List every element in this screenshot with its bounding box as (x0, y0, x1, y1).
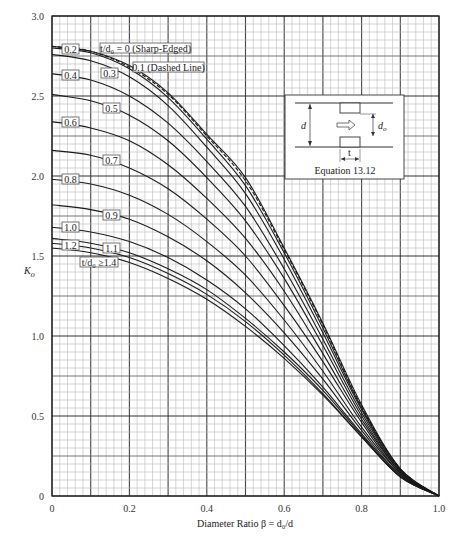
svg-text:0.4: 0.4 (64, 70, 77, 81)
svg-text:t: t (348, 147, 351, 158)
y-axis-label: Ko (23, 265, 35, 279)
curve-label: 1.0 (62, 222, 79, 233)
x-tick-label: 0 (50, 503, 55, 514)
x-axis-label: Diameter Ratio β = d₀/d (197, 518, 293, 529)
x-tick-label: 0.8 (355, 503, 368, 514)
y-tick-label: 0.5 (32, 411, 45, 422)
inset-caption: Equation 13.12 (314, 165, 375, 176)
curve-label: 0.5 (103, 103, 120, 114)
curve-label: 1.1 (103, 243, 120, 254)
x-tick-label: 1.0 (433, 503, 446, 514)
curve-label: 1.2 (62, 240, 79, 251)
y-tick-label: 1.5 (32, 251, 45, 262)
svg-text:0.2: 0.2 (64, 44, 77, 55)
curve-label: 0.6 (62, 117, 79, 128)
y-tick-label: 2.0 (32, 171, 45, 182)
svg-text:0.9: 0.9 (105, 210, 118, 221)
svg-text:0.3: 0.3 (103, 68, 116, 79)
curve-label: 0.2 (62, 44, 79, 55)
y-tick-label: 2.5 (32, 91, 45, 102)
svg-text:0.1 (Dashed Line): 0.1 (Dashed Line) (132, 62, 204, 74)
svg-text:0.7: 0.7 (105, 155, 118, 166)
y-tick-label: 3.0 (32, 11, 45, 22)
x-tick-label: 0.2 (123, 503, 136, 514)
svg-text:1.1: 1.1 (105, 243, 118, 254)
curve-label: t/d₀ ≥1.4 (80, 257, 118, 268)
y-tick-label: 0 (39, 491, 44, 502)
svg-text:1.2: 1.2 (64, 240, 77, 251)
y-axis-ticks: 00.51.01.52.02.53.0 (32, 11, 45, 502)
svg-text:0.5: 0.5 (105, 103, 118, 114)
curve-label: 0.8 (62, 174, 79, 185)
x-axis-ticks: 00.20.40.60.81.0 (50, 503, 446, 514)
y-tick-label: 1.0 (32, 331, 45, 342)
curve-label: t/d₀ = 0 (Sharp-Edged) (100, 43, 191, 55)
curve-label: 0.1 (Dashed Line) (132, 62, 204, 74)
svg-text:0.6: 0.6 (64, 117, 77, 128)
svg-text:t/d₀ ≥1.4: t/d₀ ≥1.4 (82, 257, 117, 268)
inset-diagram: d do t Equation 13.12 (285, 95, 404, 179)
curve-label: 0.9 (103, 210, 120, 221)
x-tick-label: 0.4 (201, 503, 214, 514)
discharge-coefficient-chart: t/d₀ = 0 (Sharp-Edged)0.1 (Dashed Line)0… (0, 0, 459, 542)
orifice-plate-bottom (340, 137, 360, 147)
orifice-plate-top (340, 103, 360, 113)
svg-text:1.0: 1.0 (64, 222, 77, 233)
svg-text:0.8: 0.8 (64, 174, 77, 185)
svg-text:t/d₀ = 0 (Sharp-Edged): t/d₀ = 0 (Sharp-Edged) (100, 43, 191, 55)
x-tick-label: 0.6 (278, 503, 291, 514)
curve-label: 0.4 (62, 70, 79, 81)
curve-label: 0.7 (103, 155, 120, 166)
curve-label: 0.3 (101, 68, 118, 79)
